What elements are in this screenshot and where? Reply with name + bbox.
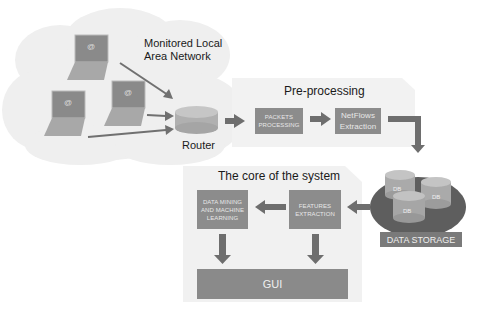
network-title: Monitored Local Area Network bbox=[144, 37, 222, 63]
box-line: Extraction bbox=[340, 121, 377, 132]
laptop-at-symbol: @ bbox=[124, 88, 132, 97]
laptop-at-symbol: @ bbox=[64, 98, 72, 107]
box-line: PACKETS bbox=[265, 113, 293, 121]
network-title-line2: Area Network bbox=[144, 50, 222, 63]
box-line: FEATURES bbox=[299, 202, 331, 210]
db-label: DB bbox=[432, 194, 440, 200]
router-icon bbox=[175, 106, 218, 134]
box-line: AND MACHINE bbox=[201, 206, 244, 214]
db-label: DB bbox=[403, 208, 411, 214]
core-title: The core of the system bbox=[218, 169, 340, 183]
network-title-line1: Monitored Local bbox=[144, 37, 222, 50]
gui-box: GUI bbox=[197, 269, 348, 299]
data-mining-box: DATA MINING AND MACHINE LEARNING bbox=[197, 190, 248, 229]
db-cylinder-2 bbox=[421, 177, 451, 209]
box-line: NetFlows bbox=[341, 110, 375, 121]
netflows-extraction-box: NetFlows Extraction bbox=[335, 108, 381, 134]
box-line: EXTRACTION bbox=[295, 210, 335, 218]
box-line: PROCESSING bbox=[258, 121, 299, 129]
db-label: DB bbox=[393, 186, 401, 192]
box-line: LEARNING bbox=[207, 214, 238, 222]
features-extraction-box: FEATURES EXTRACTION bbox=[289, 190, 341, 229]
db-cylinder-3 bbox=[393, 191, 425, 223]
preprocessing-title: Pre-processing bbox=[284, 84, 365, 98]
packets-processing-box: PACKETS PROCESSING bbox=[255, 108, 303, 134]
box-line: DATA MINING bbox=[203, 198, 242, 206]
laptop-at-symbol: @ bbox=[87, 42, 95, 51]
data-storage-label: DATA STORAGE bbox=[380, 232, 462, 247]
router-label: Router bbox=[182, 139, 215, 152]
